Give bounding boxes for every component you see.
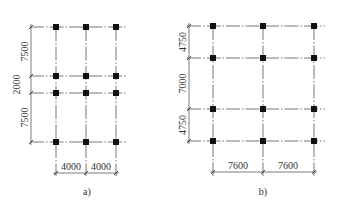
column — [53, 90, 59, 96]
column — [311, 138, 317, 144]
dim-b-col-2: 7600 — [278, 160, 298, 171]
diagram-b-vertical-axes — [213, 26, 314, 176]
dim-a-row-3: 7500 — [19, 108, 30, 128]
column — [210, 55, 216, 61]
diagram-b-columns — [210, 23, 317, 144]
column — [53, 73, 59, 79]
column — [113, 139, 119, 145]
column — [83, 90, 89, 96]
column — [260, 23, 266, 29]
diagram-a-caption: a) — [83, 186, 91, 198]
column — [53, 139, 59, 145]
dim-a-row-2: 2000 — [11, 75, 22, 95]
dim-b-col-1: 7600 — [228, 160, 248, 171]
column — [260, 138, 266, 144]
diagram-b-vertical-dimension: 4750 7000 4750 — [177, 23, 191, 144]
structural-grid-figure: 7500 2000 7500 4000 4000 a) — [0, 0, 340, 211]
column — [83, 24, 89, 30]
column — [311, 55, 317, 61]
dim-b-row-3: 4750 — [177, 115, 188, 135]
column — [311, 106, 317, 112]
column — [83, 139, 89, 145]
column — [113, 73, 119, 79]
column — [210, 106, 216, 112]
dim-a-col-2: 4000 — [91, 161, 111, 172]
column — [260, 55, 266, 61]
column — [311, 23, 317, 29]
diagram-b: 4750 7000 4750 7600 7600 b) — [177, 23, 325, 198]
column — [53, 24, 59, 30]
diagram-b-horizontal-axes — [187, 26, 325, 141]
column — [83, 73, 89, 79]
column — [113, 24, 119, 30]
column — [210, 23, 216, 29]
dim-a-row-1: 7500 — [19, 42, 30, 62]
dim-a-col-1: 4000 — [61, 161, 81, 172]
dim-b-row-2: 7000 — [177, 74, 188, 94]
column — [113, 90, 119, 96]
diagram-b-caption: b) — [259, 186, 267, 198]
diagram-a-horizontal-axes — [30, 27, 127, 142]
diagram-b-horizontal-dimension: 7600 7600 — [210, 160, 317, 174]
diagram-a: 7500 2000 7500 4000 4000 a) — [11, 24, 127, 198]
column — [260, 106, 266, 112]
diagram-a-vertical-dimension: 7500 2000 7500 — [11, 24, 33, 145]
diagram-a-vertical-axes — [56, 27, 116, 176]
column — [210, 138, 216, 144]
dim-b-row-1: 4750 — [177, 32, 188, 52]
